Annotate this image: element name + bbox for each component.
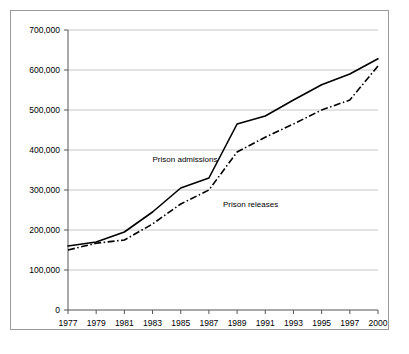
- y-axis-tick-label: 600,000: [29, 65, 60, 75]
- y-axis-tick-label: 100,000: [29, 265, 60, 275]
- y-axis-tick-label: 300,000: [29, 185, 60, 195]
- y-axis-tick-label: 0: [55, 305, 60, 315]
- x-axis-tick-label: 1993: [284, 318, 303, 328]
- series-label-annotation: Prison releases: [223, 200, 278, 209]
- x-axis-tick-label: 1991: [256, 318, 275, 328]
- line-chart: 0100,000200,000300,000400,000500,000600,…: [11, 11, 388, 329]
- y-axis-tick-label: 700,000: [29, 25, 60, 35]
- figure-border: 0100,000200,000300,000400,000500,000600,…: [10, 10, 389, 330]
- x-axis-tick-label: 1977: [59, 318, 78, 328]
- y-axis-tick-label: 200,000: [29, 225, 60, 235]
- x-axis-tick-label: 1985: [171, 318, 190, 328]
- x-axis-tick-label: 1987: [199, 318, 218, 328]
- chart-figure: 0100,000200,000300,000400,000500,000600,…: [0, 0, 409, 354]
- x-axis-tick-label: 2000: [369, 318, 388, 328]
- x-axis-tick-label: 1989: [228, 318, 247, 328]
- y-axis-tick-label: 400,000: [29, 145, 60, 155]
- x-axis-tick-label: 1981: [115, 318, 134, 328]
- x-axis-tick-label: 1995: [312, 318, 331, 328]
- x-axis-tick-label: 1979: [87, 318, 106, 328]
- series-label-annotation: Prison admissions: [153, 155, 218, 164]
- y-axis-tick-label: 500,000: [29, 105, 60, 115]
- x-axis-tick-label: 1997: [340, 318, 359, 328]
- x-axis-tick-label: 1983: [143, 318, 162, 328]
